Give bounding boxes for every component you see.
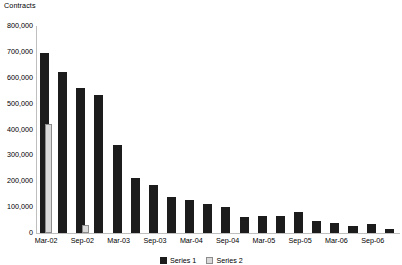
bar xyxy=(385,229,394,233)
bar xyxy=(185,200,194,233)
y-axis-tick-label: 600,000 xyxy=(7,74,33,82)
legend-label: Series 1 xyxy=(170,256,196,265)
y-axis-tick-label: 200,000 xyxy=(7,177,33,185)
y-axis-tick-label: 300,000 xyxy=(7,151,33,159)
x-axis-tick-label: Sep-03 xyxy=(143,236,166,245)
bar xyxy=(258,216,267,233)
legend-swatch xyxy=(160,257,167,264)
bar xyxy=(221,207,230,233)
bar xyxy=(294,212,303,233)
bar-chart: Contracts 800,000700,000600,000500,00040… xyxy=(0,0,402,265)
y-axis-tick-label: 500,000 xyxy=(7,100,33,108)
x-axis-tick-label: Sep-02 xyxy=(71,236,94,245)
plot-area xyxy=(37,26,400,233)
x-axis-line xyxy=(36,233,400,234)
x-axis-tick-label: Mar-02 xyxy=(35,236,58,245)
bar xyxy=(167,197,176,233)
bar xyxy=(76,88,85,233)
legend-entry: Series 2 xyxy=(206,256,242,265)
x-axis-tick-label: Sep-06 xyxy=(361,236,384,245)
x-axis-tick-label: Mar-03 xyxy=(107,236,130,245)
y-axis-tick-labels: 800,000700,000600,000500,000400,000300,0… xyxy=(0,0,33,265)
chart-legend: Series 1Series 2 xyxy=(160,256,243,265)
legend-entry: Series 1 xyxy=(160,256,196,265)
y-axis-tick-label: 700,000 xyxy=(7,48,33,56)
bar xyxy=(113,145,122,233)
bar xyxy=(240,217,249,233)
bar xyxy=(330,223,339,233)
y-axis-tick-label: 400,000 xyxy=(7,126,33,134)
bar xyxy=(312,221,321,233)
bar xyxy=(203,204,212,233)
x-axis-tick-label: Mar-05 xyxy=(252,236,275,245)
x-axis-tick-label: Mar-04 xyxy=(180,236,203,245)
bar xyxy=(149,185,158,233)
bar xyxy=(82,225,89,233)
y-axis-tick-label: 800,000 xyxy=(7,22,33,30)
bar xyxy=(58,72,67,233)
x-axis-tick-label: Mar-06 xyxy=(325,236,348,245)
bar xyxy=(276,216,285,233)
bar xyxy=(131,178,140,233)
legend-label: Series 2 xyxy=(216,256,242,265)
y-axis-tick-label: 100,000 xyxy=(7,203,33,211)
bar xyxy=(94,95,103,233)
bar xyxy=(367,224,376,233)
x-axis-tick-label: Sep-05 xyxy=(289,236,312,245)
y-axis-tick-label: 0 xyxy=(29,229,33,237)
legend-swatch xyxy=(206,257,213,264)
bar xyxy=(45,124,52,233)
bar xyxy=(348,226,357,233)
x-axis-tick-label: Sep-04 xyxy=(216,236,239,245)
